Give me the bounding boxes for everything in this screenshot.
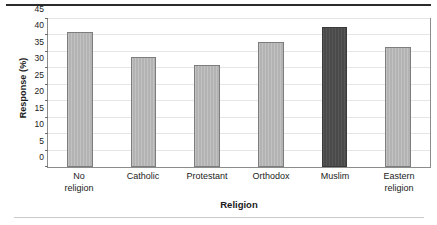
bar-group: [48, 19, 430, 167]
bar-catholic[interactable]: [131, 57, 156, 167]
top-divider-rule: [6, 4, 431, 6]
bar-eastern-religion[interactable]: [385, 47, 410, 167]
bar-orthodox[interactable]: [258, 42, 283, 167]
x-axis-tick-label-line: Catholic: [111, 171, 175, 183]
x-axis-tick-label: Muslim: [303, 171, 367, 183]
x-axis-tick-label-line: Protestant: [175, 171, 239, 183]
y-axis-tick-label: 15: [35, 103, 44, 113]
x-axis-tick-label: Noreligion: [47, 171, 111, 194]
x-axis-tick-label-line: religion: [47, 183, 111, 195]
y-axis-tick-label: 20: [35, 86, 44, 96]
x-axis-tick-label-line: Eastern: [367, 171, 431, 183]
y-axis-tick-label: 30: [35, 53, 44, 63]
plot-area: 051015202530354045: [47, 18, 431, 168]
bar-slot: [239, 19, 303, 167]
x-axis-tick-label-line: Orthodox: [239, 171, 303, 183]
y-axis-tick-label: 45: [35, 4, 44, 14]
bottom-divider-rule: [14, 217, 424, 218]
bar-muslim[interactable]: [322, 27, 347, 167]
y-axis-tick-label: 10: [35, 119, 44, 129]
bar-no-religion[interactable]: [67, 32, 92, 167]
x-axis-title: Religion: [47, 199, 431, 210]
bar-slot: [175, 19, 239, 167]
x-axis-tick-label: Protestant: [175, 171, 239, 183]
bar-protestant[interactable]: [194, 65, 219, 167]
y-axis-tick-label: 0: [39, 152, 44, 162]
x-axis-tick-label-line: No: [47, 171, 111, 183]
bar-slot: [112, 19, 176, 167]
bar-slot: [366, 19, 430, 167]
y-axis-tick-label: 25: [35, 70, 44, 80]
x-axis-tick-label-group: NoreligionCatholicProtestantOrthodoxMusl…: [47, 171, 431, 199]
bar-slot: [48, 19, 112, 167]
x-axis-tick-label: Easternreligion: [367, 171, 431, 194]
x-axis-tick-label-line: religion: [367, 183, 431, 195]
bar-slot: [303, 19, 367, 167]
x-axis-tick-label-line: Muslim: [303, 171, 367, 183]
y-axis-title: Response (%): [18, 33, 28, 143]
y-axis-tick-label: 35: [35, 37, 44, 47]
y-axis-tick-label: 5: [39, 136, 44, 146]
y-axis-tick-label: 40: [35, 20, 44, 30]
x-axis-tick-label: Orthodox: [239, 171, 303, 183]
bar-chart-figure: Response (%) 051015202530354045 Noreligi…: [0, 0, 437, 225]
x-axis-tick-label: Catholic: [111, 171, 175, 183]
